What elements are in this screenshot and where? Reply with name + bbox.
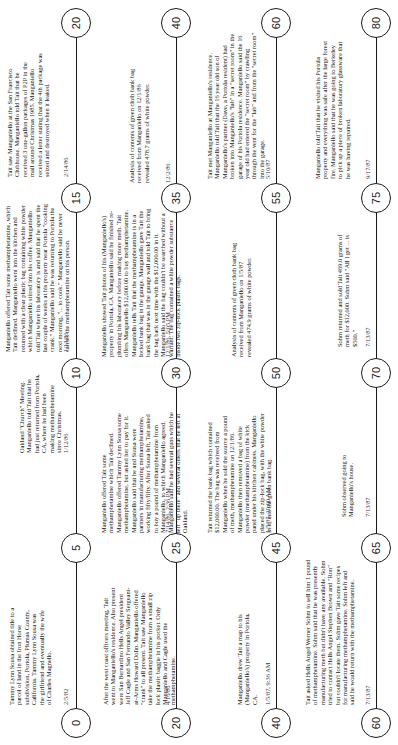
timeline-row-4: 60 65 70 75 80 Tait asked Hells Angel We… — [300, 0, 398, 745]
event-date: 7/13/87 — [364, 327, 371, 347]
timeline-marker: 75 — [361, 183, 391, 213]
timeline-marker: 10 — [61, 358, 91, 388]
timeline-marker: 0 — [61, 708, 91, 738]
event-description: Tammy Lynn Sousa obtained title to a par… — [8, 605, 52, 705]
timeline-marker: 35 — [161, 183, 191, 213]
timeline-page: 0 5 10 15 20 Tammy Lynn Sousa obtained t… — [0, 0, 398, 745]
event-date: 1/13/86 — [62, 332, 69, 352]
event-date: 1/5/87, 9:36 AM — [264, 663, 271, 705]
event-description: Manganiello told Tait that he visited hi… — [314, 41, 351, 179]
event-description: Analysis of contents of green cloth bank… — [128, 67, 150, 183]
timeline-event: Tait returned the bank bag which contain… — [206, 413, 273, 533]
timeline-marker: 80 — [361, 8, 391, 38]
timeline-marker: 25 — [161, 533, 191, 563]
event-description: Manganiello offered Tait some methamphet… — [4, 202, 71, 352]
timeline-event: Analysis of contents of green cloth bank… — [128, 67, 150, 183]
event-date: 7/13/87 — [364, 685, 371, 705]
timeline-event: Tait saw Manganiello at the San Francisc… — [6, 51, 50, 177]
timeline-event: Analysis of contents of green cloth bank… — [230, 241, 252, 357]
event-description: Analysis of contents of green cloth bank… — [230, 241, 252, 357]
timeline-event: Oakland "Church" Meeting. Manganiello to… — [18, 373, 62, 453]
timeline-marker: 45 — [261, 533, 291, 563]
event-date: 1/5/87, 10:00 AM — [264, 487, 271, 533]
event-description: Tait met Manganiello at Manganiello's re… — [206, 29, 265, 179]
event-description: Manganiello offered Tait some methamphet… — [100, 409, 189, 533]
event-description: Sohm observed going to Manganiello's hou… — [340, 421, 355, 517]
event-description: Manganiello drew Tait a map to his (Mang… — [236, 605, 258, 705]
timeline-marker: 55 — [261, 183, 291, 213]
event-description: Oakland "Church" Meeting. Manganiello to… — [18, 373, 62, 453]
timeline-marker: 20 — [61, 8, 91, 38]
timeline-marker: 15 — [61, 183, 91, 213]
timeline-marker: 50 — [261, 358, 291, 388]
timeline-marker: 40 — [161, 8, 191, 38]
timeline-marker: 60 — [261, 8, 291, 38]
timeline-row-3: 40 45 50 55 60 Manganiello drew Tait a m… — [200, 0, 299, 745]
event-description: Tait saw Manganiello at the San Francisc… — [6, 51, 50, 177]
timeline-row-2: 20 25 30 35 40 After the west coast offi… — [100, 0, 199, 745]
event-date: 5/10/87 — [264, 159, 271, 179]
event-date: 9/17/87 — [364, 159, 371, 179]
timeline-row-1: 0 5 10 15 20 Tammy Lynn Sousa obtained t… — [0, 0, 99, 745]
event-date: 12/2/86 — [164, 163, 171, 183]
timeline-event: Tammy Lynn Sousa obtained title to a par… — [8, 605, 52, 705]
timeline-marker: 40 — [261, 708, 291, 738]
event-date: 7/13/87 — [364, 497, 371, 517]
timeline-marker: 30 — [161, 358, 191, 388]
timeline-marker: 20 — [161, 708, 191, 738]
timeline-event: Tait asked Hells Angel Werner Sohm to se… — [304, 559, 356, 705]
timeline-event: Manganiello told Tait that he visited hi… — [314, 41, 351, 179]
event-date: 1/12/86 — [62, 433, 69, 453]
timeline-event: Tait met Manganiello at Manganiello's re… — [206, 29, 265, 179]
timeline-event: Sohm observed going to Manganiello's hou… — [340, 421, 355, 517]
timeline-event: Sohm returned and sold Tait 469.0 grams … — [336, 227, 358, 347]
event-description: Sohm returned and sold Tait 469.0 grams … — [336, 227, 358, 347]
timeline-event: Manganiello drew Tait a map to his (Mang… — [236, 605, 258, 705]
event-date: 12/1/86, 5:05 PM — [164, 312, 171, 357]
timeline-marker: 60 — [361, 708, 391, 738]
event-description: Tait returned the bank bag which contain… — [206, 413, 273, 533]
timeline-event: Manganiello offered Tait some methamphet… — [4, 202, 71, 352]
event-date: 2/14/86 — [62, 157, 69, 177]
event-description: Tait asked Hells Angel Werner Sohm to se… — [304, 559, 356, 705]
event-date: 2/5/82 — [62, 689, 69, 705]
timeline-marker: 65 — [361, 533, 391, 563]
timeline-marker: 5 — [61, 533, 91, 563]
event-date: 4/16/86 — [164, 685, 171, 705]
event-date: 7/14/86, 2:36 PM — [164, 488, 171, 533]
timeline-event: Manganiello offered Tait some methamphet… — [100, 409, 189, 533]
timeline-marker: 70 — [361, 358, 391, 388]
